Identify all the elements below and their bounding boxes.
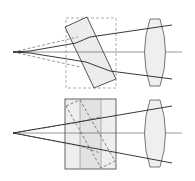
panel-bottom-cube-assembly xyxy=(13,99,182,169)
optical-diagram xyxy=(0,0,195,181)
tilted-plate xyxy=(65,17,116,88)
cube-segment-left xyxy=(65,99,80,169)
panel-top-tilted-plate xyxy=(13,17,182,88)
cube-segment-middle xyxy=(80,99,101,169)
